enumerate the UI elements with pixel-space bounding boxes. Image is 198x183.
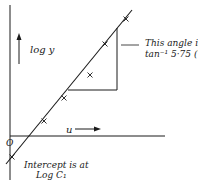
data-point-mark-icon — [88, 73, 93, 78]
origin-label: O — [6, 138, 13, 148]
angle-annotation: This angle is tan⁻¹ 5·75 (T/ρ)½ — [145, 38, 198, 60]
angle-annotation-line2: tan⁻¹ 5·75 (T/ρ)½ — [145, 49, 198, 60]
x-arrow-icon — [75, 127, 101, 132]
data-point-mark-icon — [42, 119, 47, 124]
x-axis-label: u — [66, 124, 72, 135]
intercept-annotation-line2: Log C₁ — [24, 170, 89, 180]
y-arrow-icon — [17, 33, 22, 64]
data-point-mark-icon — [62, 96, 67, 101]
intercept-annotation: Intercept is at Log C₁ — [24, 160, 89, 180]
angle-annotation-line1: This angle is — [145, 38, 198, 49]
fitted-line — [6, 10, 132, 164]
y-axis-label: log y — [30, 44, 54, 55]
log-plot-diagram — [0, 0, 198, 183]
intercept-annotation-line1: Intercept is at — [24, 160, 89, 170]
